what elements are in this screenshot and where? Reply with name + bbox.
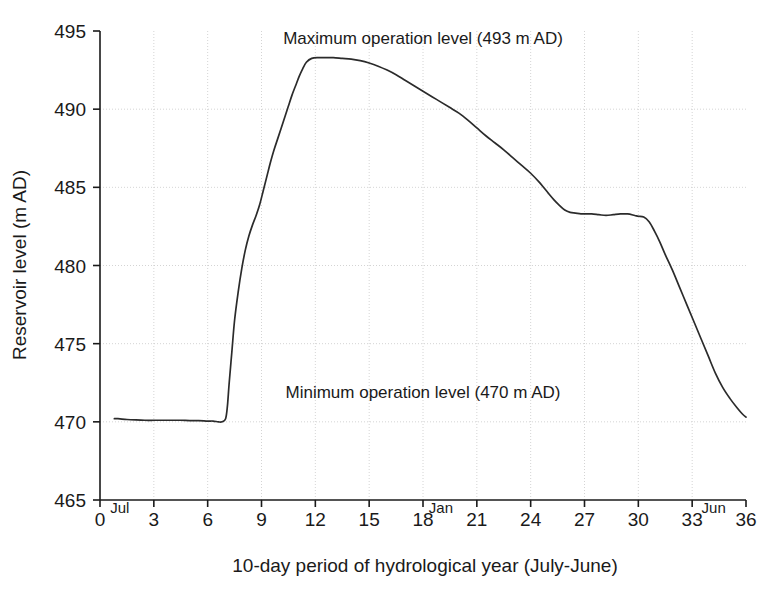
x-tick-label: 0 xyxy=(95,509,106,530)
y-tick-label: 495 xyxy=(54,21,86,42)
x-tick-label: 36 xyxy=(735,509,756,530)
minimum-operation-level-annotation: Minimum operation level (470 m AD) xyxy=(286,383,561,402)
month-marker-label: Jan xyxy=(429,499,453,516)
x-tick-label: 12 xyxy=(305,509,326,530)
maximum-operation-level-annotation: Maximum operation level (493 m AD) xyxy=(283,29,563,48)
month-marker-label: Jul xyxy=(110,499,129,516)
x-tick-label: 21 xyxy=(466,509,487,530)
x-axis-title: 10-day period of hydrological year (July… xyxy=(232,555,617,576)
y-tick-label: 470 xyxy=(54,412,86,433)
data-series-group xyxy=(114,58,746,423)
reservoir-level-line xyxy=(114,58,746,423)
y-axis-title: Reservoir level (m AD) xyxy=(9,170,30,360)
month-marker-label: Jun xyxy=(702,499,726,516)
y-tick-labels-group: 495490485480475470465 xyxy=(54,21,86,511)
x-tick-label: 6 xyxy=(202,509,213,530)
reservoir-level-line-chart: 495490485480475470465 036912151821242730… xyxy=(0,0,777,601)
x-tick-label: 3 xyxy=(149,509,160,530)
x-tick-label: 30 xyxy=(628,509,649,530)
x-tick-label: 24 xyxy=(520,509,542,530)
y-tick-label: 480 xyxy=(54,256,86,277)
x-tick-label: 15 xyxy=(359,509,380,530)
chart-figure: 495490485480475470465 036912151821242730… xyxy=(0,0,777,601)
y-tick-label: 490 xyxy=(54,99,86,120)
x-tick-label: 33 xyxy=(682,509,703,530)
y-tick-label: 475 xyxy=(54,334,86,355)
x-tick-labels-group: 0369121518212427303336 xyxy=(95,509,757,530)
gridlines-group xyxy=(100,31,746,500)
y-tick-label: 465 xyxy=(54,490,86,511)
x-tick-label: 27 xyxy=(574,509,595,530)
tick-marks-group xyxy=(93,31,746,507)
x-tick-label: 9 xyxy=(256,509,267,530)
y-tick-label: 485 xyxy=(54,177,86,198)
